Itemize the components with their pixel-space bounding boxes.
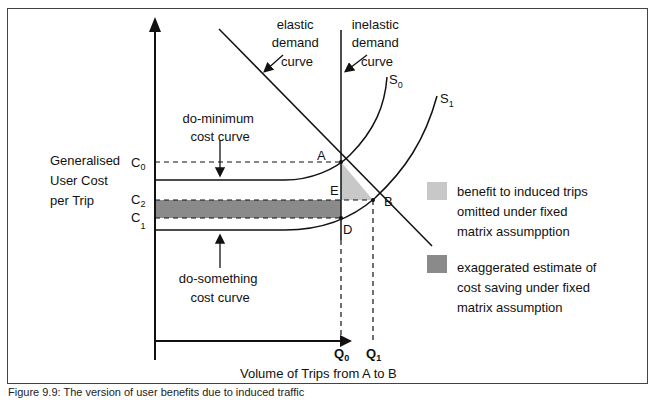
q1-label: Q1	[366, 346, 381, 363]
legend-swatch-induced-benefit	[427, 182, 447, 200]
y-axis-label: Generalised User Cost per Trip	[50, 153, 124, 208]
point-e-label: E	[330, 183, 339, 198]
point-d-label: D	[343, 222, 352, 237]
point-a-label: A	[317, 148, 326, 163]
q0-label: Q0	[334, 346, 349, 363]
cost-volume-diagram: Generalised User Cost per Trip C0 C2 C1 …	[0, 0, 656, 400]
legend-text-exaggerated-saving: exaggerated estimate of cost saving unde…	[457, 260, 600, 315]
c1-label: C1	[131, 210, 145, 231]
figure-caption: Figure 9.9: The version of user benefits…	[8, 386, 304, 398]
c0-label: C0	[131, 155, 145, 172]
c2-label: C2	[131, 192, 145, 209]
x-axis-label: Volume of Trips from A to B	[240, 366, 397, 381]
elastic-demand-label: elastic demand curve	[272, 17, 323, 69]
do-something-label: do-something cost curve	[179, 271, 261, 305]
legend-swatch-exaggerated-saving	[427, 255, 447, 273]
s0-label: S0	[389, 72, 403, 90]
y-axis-arrow-icon	[149, 17, 161, 32]
legend: benefit to induced trips omitted under f…	[427, 182, 600, 315]
s1-label: S1	[440, 91, 454, 109]
exaggerated-saving-area	[155, 200, 341, 218]
point-b-label: B	[384, 194, 393, 209]
do-minimum-label: do-minimum cost curve	[182, 111, 257, 144]
legend-text-induced-benefit: benefit to induced trips omitted under f…	[457, 184, 591, 239]
